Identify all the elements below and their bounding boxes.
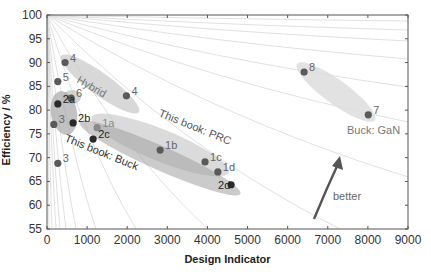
y-tick-label: 100 xyxy=(22,8,42,22)
data-point xyxy=(69,119,76,126)
data-point xyxy=(301,68,308,75)
data-point-label: 5 xyxy=(63,71,69,83)
data-point-label: 1a xyxy=(102,117,115,129)
data-point-label: 6 xyxy=(76,87,82,99)
gan-region xyxy=(290,54,382,130)
y-tick-label: 75 xyxy=(29,127,43,141)
x-tick-label: 6000 xyxy=(274,233,301,247)
data-point-label: 4 xyxy=(70,52,76,64)
data-point-label: 1d xyxy=(223,161,235,173)
x-tick-label: 4000 xyxy=(194,233,221,247)
data-point-label: 2c xyxy=(98,128,110,140)
data-point-label: 3 xyxy=(59,113,65,125)
x-tick-label: 8000 xyxy=(355,233,382,247)
data-point xyxy=(61,59,68,66)
y-tick-label: 80 xyxy=(29,103,43,117)
x-tick-label: 1000 xyxy=(74,233,101,247)
better-label: better xyxy=(333,190,361,202)
arrowhead-icon xyxy=(332,156,343,170)
data-point xyxy=(54,78,61,85)
x-tick-label: 5000 xyxy=(234,233,261,247)
y-tick-label: 95 xyxy=(29,32,43,46)
data-point-label: 1c xyxy=(210,151,222,163)
y-axis-title: Efficiency / % xyxy=(0,94,12,165)
x-tick-label: 9000 xyxy=(395,233,422,247)
data-point-label: 4 xyxy=(131,85,137,97)
y-tick-label: 55 xyxy=(29,222,43,236)
data-point-label: 7 xyxy=(373,104,379,116)
x-tick-label: 3000 xyxy=(154,233,181,247)
data-point xyxy=(157,146,164,153)
efficiency-vs-design-indicator-chart: 0100020003000400050006000700080009000556… xyxy=(0,0,431,272)
data-point-label: 8 xyxy=(309,61,315,73)
data-point-label: 2b xyxy=(78,112,90,124)
y-tick-label: 70 xyxy=(29,151,43,165)
data-point xyxy=(50,121,57,128)
x-axis-title: Design Indicator xyxy=(184,253,271,265)
y-tick-label: 65 xyxy=(29,174,43,188)
x-tick-label: 7000 xyxy=(314,233,341,247)
data-point xyxy=(54,100,61,107)
data-point-label: 2d xyxy=(218,179,230,191)
iso-line xyxy=(47,15,408,30)
data-point xyxy=(54,160,61,167)
data-point xyxy=(201,158,208,165)
data-point xyxy=(123,92,130,99)
x-tick-label: 2000 xyxy=(114,233,141,247)
gan-label: Buck: GaN xyxy=(347,124,400,136)
data-point-label: 1b xyxy=(165,139,177,151)
data-point xyxy=(365,111,372,118)
y-tick-label: 60 xyxy=(29,198,43,212)
y-tick-label: 85 xyxy=(29,79,43,93)
x-tick-label: 0 xyxy=(44,233,51,247)
data-point xyxy=(214,168,221,175)
data-point-label: 3 xyxy=(63,152,69,164)
iso-line xyxy=(47,15,408,59)
data-point-label: 2a xyxy=(63,93,76,105)
y-tick-label: 90 xyxy=(29,56,43,70)
